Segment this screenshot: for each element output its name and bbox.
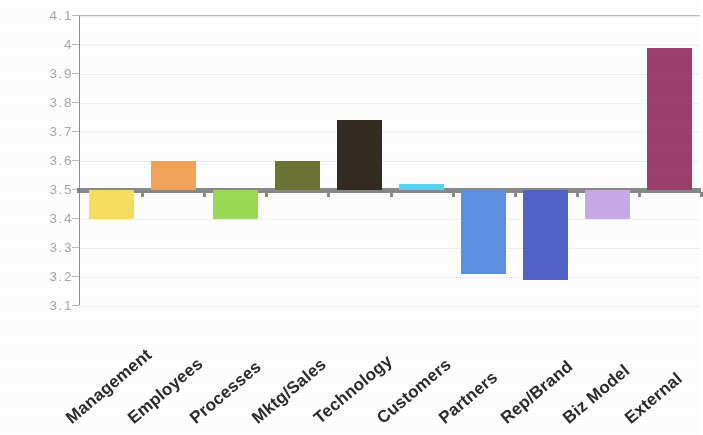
gridline (80, 103, 700, 104)
bar (399, 184, 444, 190)
y-axis-tick-label: 3.7 (9, 124, 73, 139)
x-axis-tick-mark (203, 192, 206, 197)
x-axis-tick-mark (576, 192, 579, 197)
y-axis-tick-label: 3.4 (9, 211, 73, 226)
x-axis-tick-mark (265, 192, 268, 197)
y-axis-tick-mark (72, 160, 79, 161)
y-axis-tick-mark (72, 15, 79, 16)
x-axis: ManagementEmployeesProcessesMktg/SalesTe… (0, 305, 700, 435)
y-axis-tick-label: 3.9 (9, 66, 73, 81)
y-axis-tick-mark (72, 73, 79, 74)
gridline (80, 132, 700, 133)
bar (213, 190, 258, 219)
gridline (80, 219, 700, 220)
x-axis-tick-mark (327, 192, 330, 197)
y-axis-tick-label: 3.2 (9, 269, 73, 284)
gridline (80, 277, 700, 278)
x-axis-tick-mark (514, 192, 517, 197)
x-axis-tick-mark (141, 192, 144, 197)
y-axis-tick-label: 3.6 (9, 153, 73, 168)
y-axis-tick-mark (72, 44, 79, 45)
bar (275, 161, 320, 190)
x-axis-tick-mark (452, 192, 455, 197)
y-axis-tick-label: 3.3 (9, 240, 73, 255)
gridline (80, 74, 700, 75)
x-axis-tick-mark (390, 192, 393, 197)
x-axis-tick-mark (638, 192, 641, 197)
gridline (80, 248, 700, 249)
bar (151, 161, 196, 190)
gridline (80, 45, 700, 46)
y-axis-tick-label: 4.1 (9, 8, 73, 23)
bar (89, 190, 134, 219)
bar (647, 48, 692, 190)
gridline (80, 16, 700, 17)
y-axis-tick-label: 3.8 (9, 95, 73, 110)
y-axis-tick-mark (72, 218, 79, 219)
plot-area (79, 15, 700, 305)
y-axis-tick-label: 3.5 (9, 182, 73, 197)
bar (461, 190, 506, 274)
bar (337, 120, 382, 190)
bar (523, 190, 568, 280)
y-axis-tick-mark (72, 247, 79, 248)
y-axis-tick-mark (72, 131, 79, 132)
bar (585, 190, 630, 219)
y-axis-tick-mark (72, 102, 79, 103)
y-axis-tick-mark (72, 276, 79, 277)
y-axis-tick-label: 4 (9, 37, 73, 52)
